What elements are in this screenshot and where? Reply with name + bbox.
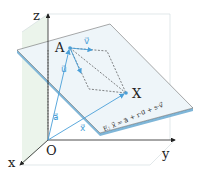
- origin-label: O: [46, 144, 57, 157]
- point-x-label: X: [132, 87, 141, 100]
- vector-v-label: v⃗: [84, 37, 89, 46]
- diagram-canvas: [0, 0, 205, 178]
- vector-plane-diagram: z y x O A X v⃗ u⃗ a⃗ x⃗ E: x⃗ = a⃗ + r·u…: [0, 0, 205, 178]
- y-axis-label: y: [162, 147, 169, 160]
- vector-u-label: u⃗: [61, 65, 67, 74]
- side-plane: [22, 14, 48, 165]
- vector-x-label: x⃗: [80, 124, 85, 133]
- vector-a-label: a⃗: [53, 113, 59, 122]
- point-a-label: A: [55, 41, 64, 54]
- z-axis-label: z: [33, 9, 40, 22]
- x-axis-label: x: [8, 156, 15, 169]
